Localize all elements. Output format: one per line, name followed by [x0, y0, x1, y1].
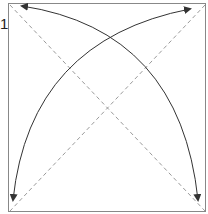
- fold-arrow-tl-to-br: [22, 6, 198, 200]
- fold-arrow-tr-to-bl: [13, 9, 190, 200]
- fold-diagram: [0, 0, 208, 214]
